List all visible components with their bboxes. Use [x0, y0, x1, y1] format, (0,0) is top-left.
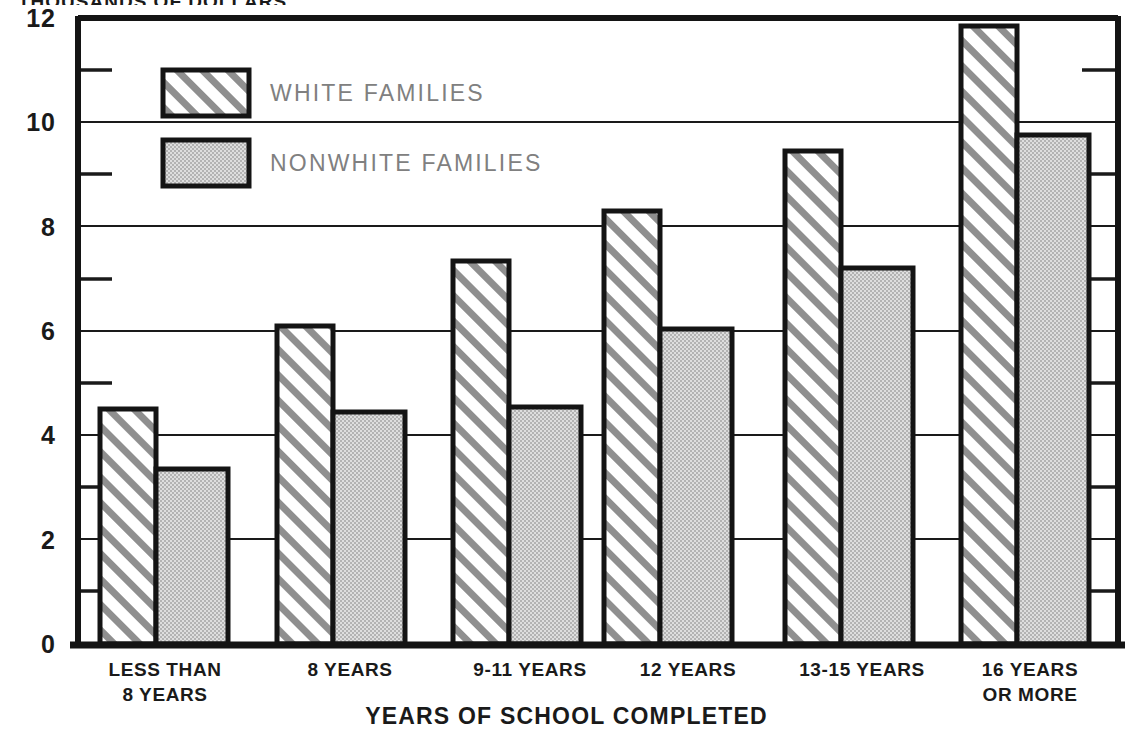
bar-white-0 [100, 409, 156, 644]
x-tick-label-0: LESS THAN 8 YEARS [55, 657, 275, 707]
legend-label-nonwhite-families: NONWHITE FAMILIES [270, 150, 543, 177]
bar-group-16-years-or-more [961, 26, 1089, 644]
bar-white-3 [604, 211, 660, 644]
plot-area [0, 0, 1133, 739]
bar-group-12-years [604, 211, 732, 644]
bar-group-8-years [277, 326, 405, 644]
x-tick-label-5: 16 YEARS OR MORE [945, 657, 1115, 707]
bar-group-less-than-8-years [100, 409, 228, 644]
bar-white-2 [453, 261, 509, 644]
bar-nonwhite-0 [156, 469, 228, 644]
bar-nonwhite-5 [1017, 135, 1089, 644]
legend-swatch-white-families [163, 70, 249, 116]
bar-white-1 [277, 326, 333, 644]
bar-group-9-11-years [453, 261, 581, 644]
bar-nonwhite-3 [660, 329, 732, 644]
x-tick-label-4: 13-15 YEARS [752, 657, 972, 682]
x-axis-title: YEARS OF SCHOOL COMPLETED [0, 703, 1133, 730]
legend [163, 70, 249, 186]
legend-label-white-families: WHITE FAMILIES [270, 80, 485, 107]
bar-white-5 [961, 26, 1017, 644]
bar-nonwhite-4 [841, 268, 913, 644]
legend-swatch-nonwhite-families [163, 140, 249, 186]
bar-nonwhite-1 [333, 412, 405, 644]
bar-nonwhite-2 [509, 407, 581, 644]
chart-figure: THOUSANDS OF DOLLARS 12 10 8 6 4 2 0 [0, 0, 1133, 739]
bar-white-4 [785, 151, 841, 644]
